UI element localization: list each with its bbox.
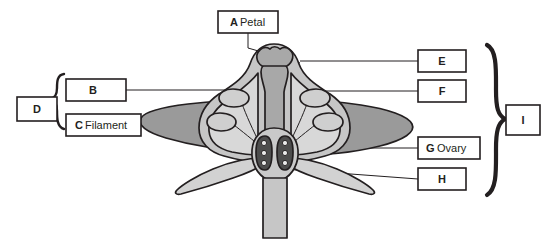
label-e-letter: E (438, 55, 445, 67)
label-box-e[interactable]: E (418, 50, 466, 72)
flower-diagram: A Petal B C Filament D E F (0, 0, 546, 245)
label-d-letter: D (33, 103, 41, 115)
label-box-c[interactable]: C Filament (66, 114, 141, 136)
label-g-word: Ovary (437, 142, 467, 154)
anther-right-lower (313, 113, 343, 131)
label-a-word: Petal (240, 16, 265, 28)
anther-left-upper (219, 89, 249, 107)
label-i-letter: I (521, 114, 524, 126)
label-box-f[interactable]: F (418, 80, 466, 102)
label-box-h[interactable]: H (418, 168, 466, 190)
anther-right-upper (300, 89, 330, 107)
label-c-word: Filament (85, 119, 127, 131)
label-c-letter: C (75, 119, 83, 131)
label-box-d[interactable]: D (17, 97, 57, 121)
label-h-letter: H (438, 173, 446, 185)
label-box-g[interactable]: G Ovary (418, 137, 480, 159)
label-f-letter: F (439, 85, 446, 97)
pedicel (263, 178, 287, 238)
label-a-letter: A (230, 16, 238, 28)
label-box-b[interactable]: B (66, 79, 126, 101)
label-box-i[interactable]: I (506, 105, 540, 135)
label-g-letter: G (426, 142, 435, 154)
stigma (257, 47, 293, 66)
label-b-letter: B (89, 84, 97, 96)
label-box-a[interactable]: A Petal (218, 11, 278, 33)
anther-left-lower (207, 113, 236, 131)
